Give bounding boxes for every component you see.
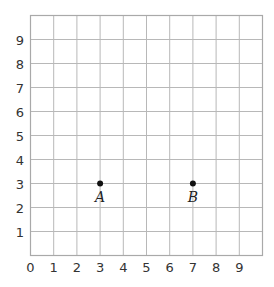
x-tick-label: 9 — [235, 260, 243, 275]
y-tick-label: 5 — [16, 129, 24, 144]
x-tick-label: 2 — [73, 260, 81, 275]
y-axis-ticks: 123456789 — [16, 33, 24, 240]
point-label: B — [187, 189, 198, 205]
point-a: A — [93, 181, 105, 205]
y-tick-label: 7 — [16, 81, 24, 96]
y-tick-label: 3 — [16, 177, 24, 192]
x-axis-ticks: 0123456789 — [26, 260, 243, 275]
y-tick-label: 2 — [16, 201, 24, 216]
x-tick-label: 1 — [50, 260, 58, 275]
x-tick-label: 6 — [166, 260, 174, 275]
x-tick-label: 4 — [119, 260, 127, 275]
point-b: B — [187, 181, 198, 205]
y-tick-label: 9 — [16, 33, 24, 48]
point-marker — [97, 181, 103, 187]
y-tick-label: 6 — [16, 105, 24, 120]
y-tick-label: 1 — [16, 225, 24, 240]
x-tick-label: 3 — [96, 260, 104, 275]
gridlines — [31, 16, 263, 256]
point-marker — [190, 181, 196, 187]
coordinate-grid: 0123456789 123456789 AB — [0, 0, 274, 287]
y-tick-label: 4 — [16, 153, 24, 168]
y-tick-label: 8 — [16, 57, 24, 72]
x-tick-label: 8 — [212, 260, 220, 275]
x-tick-label: 7 — [189, 260, 197, 275]
x-tick-label: 5 — [142, 260, 150, 275]
x-tick-label: 0 — [26, 260, 34, 275]
point-label: A — [93, 189, 105, 205]
plotted-points: AB — [93, 181, 198, 205]
